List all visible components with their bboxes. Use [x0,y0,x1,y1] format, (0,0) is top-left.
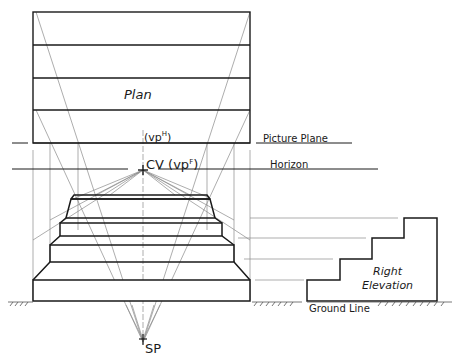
ground-line-label: Ground Line [309,304,370,314]
vp-h-label: (vpH) [144,131,171,143]
right-elevation-label-line2: Elevation [362,280,413,291]
vp-h-close: ) [167,131,171,144]
horizon-label: Horizon [270,160,308,170]
picture-plane-label: Picture Plane [263,134,328,144]
ground-line-hatching [8,302,452,306]
cv-text: CV (vp [146,157,189,172]
cv-label: CV (vpF) [146,158,198,171]
plan-view [33,12,250,143]
plan-label: Plan [124,88,152,101]
cv-close: ) [193,157,198,172]
perspective-drawing [0,0,462,359]
sp-label: SP [145,342,161,355]
vp-h-text: (vp [144,131,162,144]
right-elevation-label-line1: Right [373,266,402,277]
